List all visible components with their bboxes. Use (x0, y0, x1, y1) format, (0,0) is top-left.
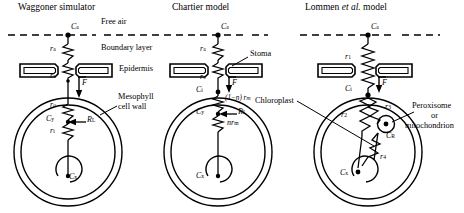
lommen-title-part2: model (361, 2, 387, 12)
mesophyll-cell-wall-circles (314, 98, 422, 206)
symbol-r2-lommen: r2 (341, 110, 347, 119)
panel-title-chartier: Chartier model (172, 2, 229, 12)
label-boundary-layer: Boundary layer (101, 43, 152, 52)
symbol-1-minus-n-rm-chartier: (1−n) rm (225, 94, 250, 102)
symbol-ra-chartier: ra (200, 44, 206, 53)
symbol-Cx-lommen: Cx (340, 168, 348, 177)
symbol-rs-chartier: rs (200, 72, 205, 81)
symbol-Cx-chartier: Cx (196, 171, 204, 180)
label-epidermis: Epidermis (119, 64, 153, 73)
node-Ca (365, 32, 370, 37)
symbol-Cy-waggoner: Cy (46, 114, 54, 123)
label-chloroplast: Chloroplast (255, 96, 294, 105)
symbol-Cy-chartier: Cy (196, 107, 204, 116)
node-Ci (365, 92, 370, 97)
lommen-title-etal: et al. (342, 2, 361, 12)
node-Ca (215, 32, 220, 37)
symbol-r1-lommen: r1 (345, 52, 351, 61)
symbol-Ca-waggoner: Ca (71, 22, 79, 31)
diagram-svg (0, 0, 464, 213)
node-Ci (216, 90, 221, 95)
label-mesophyll-line1: Mesophyll (118, 92, 154, 101)
symbol-ri-waggoner: ri (50, 126, 55, 135)
symbol-F-waggoner: F (82, 78, 87, 87)
symbol-ro-waggoner: ro (50, 100, 56, 109)
source-arrow-RL (68, 119, 86, 125)
node-CR (384, 122, 389, 127)
symbol-CR-lommen: CR (386, 131, 395, 140)
symbol-Cx-waggoner: Cx (69, 172, 77, 181)
symbol-F-lommen: F (382, 78, 387, 87)
resistor-r1 (362, 44, 374, 88)
panel-chartier (164, 32, 272, 206)
node-junction (66, 79, 70, 83)
source-arrow-RL (219, 111, 237, 117)
resistor-r2 (360, 98, 370, 136)
symbol-F-chartier: F (232, 78, 237, 87)
label-peroxisome-line2: or (431, 111, 438, 120)
label-peroxisome-line1: Peroxisome (412, 101, 451, 110)
resistor-ro (63, 104, 73, 120)
symbol-Ca-lommen: Ca (371, 22, 379, 31)
resistor-rs (213, 63, 223, 81)
node-Ca (65, 32, 70, 37)
symbol-ra-waggoner: ra (50, 44, 56, 53)
resistor-ra (213, 44, 223, 60)
inner-organelle-circle (206, 156, 232, 182)
panel-title-waggoner: Waggoner simulator (18, 2, 95, 12)
lommen-title-part1: Lommen (305, 2, 342, 12)
chloroplast-leader-line (297, 101, 374, 146)
symbol-r4-lommen: r4 (380, 152, 386, 161)
panel-title-lommen: Lommen et al. model (305, 2, 387, 12)
symbol-Ci-chartier: Ci (196, 85, 203, 94)
node-Cx (356, 170, 361, 175)
resistor-nrm (213, 116, 223, 132)
node-Cx (216, 174, 220, 178)
resistor-ri (63, 124, 73, 140)
symbol-r3-lommen: r3 (385, 102, 391, 111)
panel-lommen (297, 32, 422, 206)
label-free-air: Free air (101, 17, 127, 26)
symbol-RL-chartier: RL (238, 107, 246, 116)
resistor-rs (63, 63, 73, 81)
label-mesophyll-line2: cell wall (118, 102, 146, 111)
symbol-Ci-lommen: Ci (345, 84, 352, 93)
panel-waggoner (14, 32, 122, 206)
symbol-RL-waggoner: RL (87, 115, 95, 124)
figure-canvas: Waggoner simulator Chartier model Lommen… (0, 0, 464, 213)
label-peroxisome-line3: mitochondrion (405, 121, 454, 130)
resistor-ra (63, 44, 73, 60)
symbol-rs-waggoner: rs (50, 71, 55, 80)
symbol-nrm-chartier: nrm (227, 118, 238, 127)
label-stoma: Stoma (250, 49, 271, 58)
symbol-Ca-chartier: Ca (221, 22, 229, 31)
